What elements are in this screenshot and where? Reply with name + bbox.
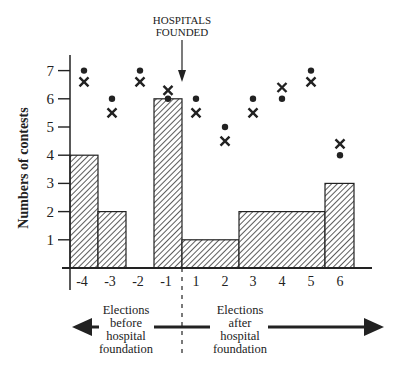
y-tick-label: 1 [47,232,55,248]
x-marker [278,83,287,92]
x-tick-label: -4 [76,274,88,289]
dot-marker [193,96,199,102]
left-label: before [110,316,142,330]
bar [70,155,98,268]
dot-marker [250,96,256,102]
y-tick-label: 2 [47,204,55,220]
left-label: foundation [99,342,154,356]
x-tick-label: 3 [250,274,257,289]
annotation-text: HOSPITALS [153,14,211,26]
dot-marker [279,96,285,102]
chart: 1234567 Numbers of contests-4-3-2-112345… [0,0,402,372]
right-label: hospital [220,329,260,343]
x-marker [136,77,145,86]
x-tick-label: -1 [160,274,172,289]
dot-marker [308,67,314,73]
left-arrow-icon [72,318,92,336]
y-tick-label: 4 [47,147,55,163]
bar [182,240,239,268]
x-tick-label: -2 [132,274,144,289]
x-marker [307,77,316,86]
y-tick-label: 5 [47,119,55,135]
bar [325,183,354,268]
annotation-text: FOUNDED [156,26,209,38]
x-marker [108,108,117,117]
x-marker [80,77,89,86]
right-label: Elections [217,303,264,317]
right-label: after [229,316,253,330]
y-tick-label: 7 [47,63,55,79]
x-tick-label: 2 [222,274,229,289]
left-label: hospital [106,329,146,343]
bar [98,212,126,268]
x-marker [336,139,345,148]
right-label: foundation [213,342,268,356]
markers [80,67,345,158]
x-marker [221,137,230,146]
x-tick-label: -3 [104,274,116,289]
dot-marker [165,96,171,102]
dot-marker [222,124,228,130]
dot-marker [81,67,87,73]
x-tick-label: 4 [279,274,286,289]
x-tick-label: 5 [308,274,315,289]
x-marker [164,86,173,95]
bar [239,212,325,268]
left-label: Elections [103,303,150,317]
y-tick-label: 3 [47,175,55,191]
right-arrow-icon [364,318,384,336]
x-marker [249,108,258,117]
x-tick-label: 6 [337,274,344,289]
dot-marker [109,96,115,102]
arrow-head-icon [178,70,186,82]
y-axis-label: Numbers of contests [16,107,31,229]
x-marker [192,108,201,117]
dot-marker [137,67,143,73]
x-tick-label: 1 [193,274,200,289]
dot-marker [337,152,343,158]
y-tick-label: 6 [47,91,55,107]
bar [154,99,182,268]
bars [70,99,354,268]
